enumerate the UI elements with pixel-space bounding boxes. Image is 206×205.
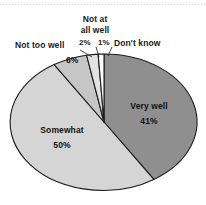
label-dont-know-pct: 1%: [98, 38, 110, 49]
label-somewhat-pct: 50%: [34, 140, 90, 151]
label-somewhat: Somewhat: [34, 125, 90, 136]
label-not-too-well: Not too well: [15, 40, 64, 51]
label-not-at-all-well-pct: 2%: [79, 38, 91, 49]
pie-chart-figure: Not at all well 2% 1% Don't know Not too…: [0, 0, 206, 205]
label-not-at-all-well-line2: all well: [72, 25, 118, 36]
label-dont-know: Don't know: [114, 38, 160, 49]
label-very-well-pct: 41%: [125, 116, 173, 127]
label-not-at-all-well-line1: Not at: [72, 14, 118, 25]
label-very-well: Very well: [125, 101, 173, 112]
label-not-too-well-pct: 6%: [66, 55, 79, 66]
label-not-at-all-well: Not at all well: [72, 14, 118, 35]
